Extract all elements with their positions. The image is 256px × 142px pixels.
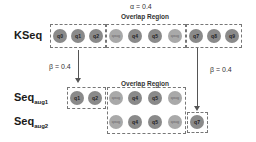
- seq-aug1-node-qaug-1: qaug: [109, 91, 123, 105]
- kseq-label: KSeq: [14, 29, 42, 41]
- seq-aug1-label: Seqaug1: [14, 91, 48, 105]
- node-label: q1: [74, 95, 80, 101]
- seq-aug1-node-q5: q5: [148, 91, 162, 105]
- node-label: qaug: [171, 120, 179, 124]
- alpha-label: α = 0.4: [130, 3, 152, 10]
- kseq-node-q0: q0: [53, 29, 67, 43]
- node-label: q2: [93, 33, 99, 39]
- seq-aug2-node-q5: q5: [148, 115, 162, 129]
- kseq-node-q2: q2: [89, 29, 103, 43]
- kseq-node-q1: q1: [71, 29, 85, 43]
- node-label: qaug: [112, 120, 120, 124]
- node-label: q4: [132, 95, 138, 101]
- seq-aug1-node-qaug-2: qaug: [168, 91, 182, 105]
- node-label: q4: [132, 33, 138, 39]
- overlap-region-label-bottom: Overlap Region: [121, 80, 169, 87]
- node-label: qaug: [112, 96, 120, 100]
- seq-aug2-node-qaug-1: qaug: [109, 115, 123, 129]
- beta-right-label: β = 0.4: [210, 66, 232, 73]
- overlap-region-label-top: Overlap Region: [121, 13, 169, 20]
- beta-left-label: β = 0.4: [49, 63, 71, 70]
- node-label: qaug: [112, 34, 120, 38]
- seq-aug2-node-q4: q4: [128, 115, 142, 129]
- node-label: q0: [57, 33, 63, 39]
- node-label: q5: [152, 95, 158, 101]
- seq-aug2-main: Seq: [14, 115, 34, 127]
- seq-aug1-node-q2: q2: [88, 91, 102, 105]
- seq-aug1-node-q1: q1: [70, 91, 84, 105]
- kseq-node-q7: q7: [189, 29, 203, 43]
- node-label: q4: [132, 119, 138, 125]
- seq-aug2-node-qaug-2: qaug: [168, 115, 182, 129]
- seq-aug2-sub: aug2: [34, 123, 48, 129]
- seq-aug1-node-q4: q4: [128, 91, 142, 105]
- arrow-left-shaft: [78, 50, 79, 79]
- node-label: q5: [152, 33, 158, 39]
- seq-aug2-label: Seqaug2: [14, 115, 48, 129]
- node-label: qaug: [171, 34, 179, 38]
- kseq-node-q9: q9: [225, 29, 239, 43]
- node-label: q1: [75, 33, 81, 39]
- node-label: q9: [229, 33, 235, 39]
- node-label: q2: [92, 95, 98, 101]
- node-label: q7: [194, 119, 200, 125]
- node-label: qaug: [171, 96, 179, 100]
- kseq-node-qaug-1: qaug: [109, 29, 123, 43]
- node-label: q5: [152, 119, 158, 125]
- kseq-node-q8: q8: [207, 29, 221, 43]
- kseq-node-q4: q4: [128, 29, 142, 43]
- node-label: q8: [211, 33, 217, 39]
- seq-aug1-sub: aug1: [34, 99, 48, 105]
- seq-aug1-main: Seq: [14, 91, 34, 103]
- kseq-node-q5: q5: [148, 29, 162, 43]
- seq-aug2-node-q7: q7: [190, 115, 204, 129]
- kseq-node-qaug-2: qaug: [168, 29, 182, 43]
- node-label: q7: [193, 33, 199, 39]
- arrow-left-head-icon: [75, 78, 81, 83]
- arrow-right-head-icon: [194, 106, 200, 111]
- arrow-right-shaft: [197, 48, 198, 107]
